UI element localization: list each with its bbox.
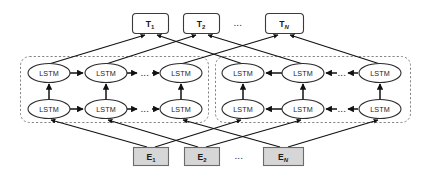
input-embedding-box[interactable]: E2 [185, 148, 220, 166]
lstm-cell-label: LSTM [171, 69, 191, 78]
lstm-cell[interactable]: LSTM [85, 100, 127, 119]
output-row-ellipsis: ... [234, 19, 242, 28]
lstm-cell-label: LSTM [39, 105, 59, 114]
stacked-layer-arrows [49, 84, 380, 100]
lstm-cell[interactable]: LSTM [282, 100, 324, 119]
backward-bottom-ellipsis: ... [338, 105, 346, 114]
lstm-cell-label: LSTM [96, 105, 116, 114]
input-embedding-boxes: E1 E2 EN ... [134, 148, 304, 166]
lstm-cell-label: LSTM [370, 105, 390, 114]
lstm-cell-label: LSTM [293, 105, 313, 114]
lstm-cell-label: LSTM [370, 69, 390, 78]
lstm-cell[interactable]: LSTM [85, 64, 127, 83]
output-tag-boxes: T1 T2 TN ... [133, 14, 304, 34]
lstm-cell[interactable]: LSTM [359, 100, 401, 119]
input-connection-lines [51, 120, 378, 147]
output-tag-box[interactable]: TN [266, 14, 304, 34]
lstm-cell[interactable]: LSTM [222, 100, 264, 119]
lstm-cell-label: LSTM [233, 69, 253, 78]
lstm-cell-label: LSTM [171, 105, 191, 114]
lstm-cell[interactable]: LSTM [28, 100, 70, 119]
forward-bottom-ellipsis: ... [141, 105, 149, 114]
input-embedding-subscript: N [284, 157, 289, 163]
output-tag-subscript: N [284, 24, 289, 30]
input-embedding-box[interactable]: E1 [134, 148, 169, 166]
lstm-cell-label: LSTM [233, 105, 253, 114]
output-tag-box[interactable]: T1 [133, 14, 169, 34]
backward-lstm-cells: LSTM LSTM LSTM LSTM LSTM LSTM .. [222, 64, 401, 119]
lstm-cell-label: LSTM [293, 69, 313, 78]
forward-top-ellipsis: ... [141, 69, 149, 78]
lstm-cell[interactable]: LSTM [160, 64, 202, 83]
backward-top-ellipsis: ... [338, 69, 346, 78]
lstm-cell[interactable]: LSTM [160, 100, 202, 119]
bilstm-diagram-figure: LSTM LSTM LSTM LSTM LSTM LSTM .. [0, 0, 428, 178]
output-tag-box[interactable]: T2 [184, 14, 220, 34]
lstm-cell[interactable]: LSTM [28, 64, 70, 83]
input-row-ellipsis: ... [235, 152, 243, 161]
lstm-cell[interactable]: LSTM [222, 64, 264, 83]
input-embedding-box[interactable]: EN [264, 148, 304, 166]
lstm-cell-label: LSTM [39, 69, 59, 78]
forward-lstm-cells: LSTM LSTM LSTM LSTM LSTM LSTM .. [28, 64, 202, 119]
lstm-cell-label: LSTM [96, 69, 116, 78]
diagram-canvas: LSTM LSTM LSTM LSTM LSTM LSTM .. [0, 0, 428, 178]
lstm-cell[interactable]: LSTM [359, 64, 401, 83]
output-connection-lines [49, 35, 380, 64]
lstm-cell[interactable]: LSTM [282, 64, 324, 83]
